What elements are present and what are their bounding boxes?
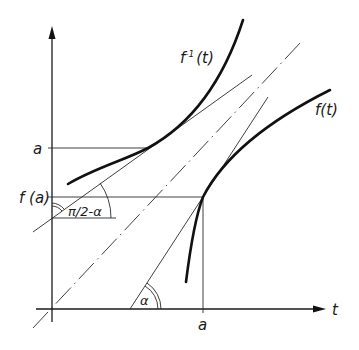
label-f: f(t) — [315, 101, 338, 119]
tangent-line-f-inverse — [33, 75, 252, 232]
guide-lines — [48, 148, 203, 313]
axes — [36, 26, 326, 322]
label-t-axis: t — [332, 301, 339, 319]
label-y-fa: f (a) — [19, 189, 50, 207]
curve-f — [186, 90, 330, 282]
x-axis-arrow-icon — [313, 306, 326, 313]
curve-f-inverse — [68, 20, 243, 184]
y-axis-arrow-icon — [49, 26, 56, 39]
label-f-inverse: f-1(t) — [180, 49, 214, 67]
label-angle-complement: π/2-α — [68, 204, 102, 219]
inverse-function-diagram: f-1(t) f(t) a f (a) π/2-α α a t — [0, 0, 359, 350]
label-y-a: a — [33, 140, 42, 158]
label-x-a: a — [198, 316, 207, 334]
label-angle-alpha: α — [140, 293, 149, 308]
identity-diagonal-line — [33, 42, 301, 328]
